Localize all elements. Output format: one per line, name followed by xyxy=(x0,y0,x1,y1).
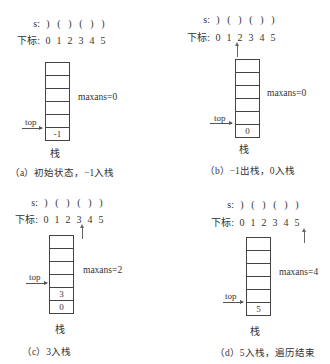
stack-cell xyxy=(236,60,259,73)
char-0: ) xyxy=(41,197,52,208)
index-1: 1 xyxy=(248,217,259,228)
index-4: 4 xyxy=(87,35,98,46)
index-row: 下标: 012345 xyxy=(184,29,279,44)
index-3: 3 xyxy=(246,32,257,43)
panel-caption: （c）3入栈 xyxy=(22,344,71,358)
stack-cell xyxy=(46,76,69,89)
stack-caption: 栈 xyxy=(50,145,60,160)
stack-cell xyxy=(46,63,69,76)
top-label: top xyxy=(29,272,41,282)
index-row: 下标: 012345 xyxy=(12,211,107,226)
panel-c: s: )()()) 下标: 012345 3 0 maxans=2 top 栈 … xyxy=(0,180,165,362)
index-0: 0 xyxy=(43,35,54,46)
index-row: 下标: 012345 xyxy=(208,214,303,229)
top-arrow-icon xyxy=(22,128,42,129)
char-5: ) xyxy=(292,199,303,210)
stack-caption: 栈 xyxy=(55,321,65,336)
stack-cell xyxy=(247,264,270,277)
s-label: s: xyxy=(184,14,210,25)
stack-cell xyxy=(236,73,259,86)
index-label: 下标: xyxy=(184,29,210,44)
char-3: ( xyxy=(76,18,87,29)
pointer-arrow-icon xyxy=(82,227,83,239)
panel-b: s: )()()) 下标: 012345 0 maxans=0 top 栈 （b… xyxy=(165,0,330,182)
stack-cell xyxy=(236,112,259,125)
index-4: 4 xyxy=(85,214,96,225)
index-label: 下标: xyxy=(14,32,40,47)
index-5: 5 xyxy=(98,35,109,46)
stack-cell xyxy=(247,277,270,290)
stack-cell xyxy=(50,249,73,262)
index-3: 3 xyxy=(270,217,281,228)
stack-cell xyxy=(46,89,69,102)
string-row: s: )()()) xyxy=(208,199,303,210)
stack-caption: 栈 xyxy=(239,141,249,156)
index-2: 2 xyxy=(65,35,76,46)
stack-cell xyxy=(46,115,69,128)
char-3: ( xyxy=(270,199,281,210)
char-5: ) xyxy=(268,14,279,25)
char-5: ) xyxy=(96,197,107,208)
index-4: 4 xyxy=(281,217,292,228)
index-2: 2 xyxy=(63,214,74,225)
index-1: 1 xyxy=(52,214,63,225)
stack-cell xyxy=(236,86,259,99)
string-row: s: )()()) xyxy=(14,18,109,29)
index-0: 0 xyxy=(41,214,52,225)
s-label: s: xyxy=(14,18,40,29)
index-0: 0 xyxy=(213,32,224,43)
stack-cell xyxy=(247,290,270,303)
stack: 0 xyxy=(235,59,260,138)
maxans-label: maxans=0 xyxy=(78,92,117,102)
char-2: ) xyxy=(65,18,76,29)
index-row: 下标: 012345 xyxy=(14,32,109,47)
stack-cell xyxy=(50,236,73,249)
char-4: ) xyxy=(87,18,98,29)
index-4: 4 xyxy=(257,32,268,43)
pointer-arrow-icon xyxy=(237,45,238,57)
maxans-label: maxans=2 xyxy=(83,265,122,275)
index-2: 2 xyxy=(259,217,270,228)
char-3: ( xyxy=(74,197,85,208)
char-3: ( xyxy=(246,14,257,25)
stack-cell xyxy=(46,102,69,115)
index-0: 0 xyxy=(237,217,248,228)
char-0: ) xyxy=(213,14,224,25)
char-4: ) xyxy=(281,199,292,210)
index-3: 3 xyxy=(76,35,87,46)
index-5: 5 xyxy=(96,214,107,225)
char-5: ) xyxy=(98,18,109,29)
string-row: s: )()()) xyxy=(12,197,107,208)
stack-cell: 5 xyxy=(247,303,270,316)
stack: 3 0 xyxy=(49,235,74,314)
string-row: s: )()()) xyxy=(184,14,279,25)
char-4: ) xyxy=(85,197,96,208)
maxans-label: maxans=0 xyxy=(267,88,306,98)
top-label: top xyxy=(225,291,237,301)
stack-cell: 0 xyxy=(50,301,73,314)
char-2: ) xyxy=(63,197,74,208)
panel-caption: （d）5入栈，遍历结束 xyxy=(215,345,315,359)
top-label: top xyxy=(25,117,37,127)
top-arrow-icon xyxy=(26,283,47,284)
stack-cell xyxy=(247,238,270,251)
index-1: 1 xyxy=(224,32,235,43)
stack: -1 xyxy=(45,62,70,141)
stack-caption: 栈 xyxy=(250,323,260,338)
char-0: ) xyxy=(237,199,248,210)
panel-caption: （b）−1出栈，0入栈 xyxy=(205,163,295,177)
char-2: ) xyxy=(235,14,246,25)
char-0: ) xyxy=(43,18,54,29)
stack-cell xyxy=(236,99,259,112)
index-1: 1 xyxy=(54,35,65,46)
stack-cell xyxy=(50,262,73,275)
index-label: 下标: xyxy=(208,214,234,229)
pointer-arrow-icon xyxy=(304,231,305,243)
char-4: ) xyxy=(257,14,268,25)
panel-a: s: )()()) 下标: 012345 -1 maxans=0 top 栈 （… xyxy=(0,0,165,182)
top-arrow-icon xyxy=(210,123,232,124)
maxans-label: maxans=4 xyxy=(279,267,318,277)
char-2: ) xyxy=(259,199,270,210)
s-label: s: xyxy=(12,197,38,208)
index-5: 5 xyxy=(268,32,279,43)
